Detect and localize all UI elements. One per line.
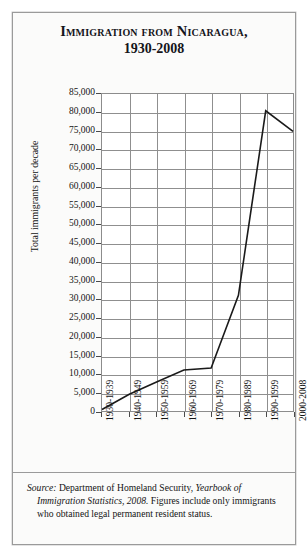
source-note: Source: Department of Homeland Security,… [27, 481, 291, 521]
y-axis-tick-label: 15,000 [69, 351, 95, 361]
y-axis-tick-label: 70,000 [69, 144, 95, 154]
y-axis-tick-label: 5,000 [74, 388, 95, 398]
y-axis-tick-label: 60,000 [69, 182, 95, 192]
y-axis-tick-label: 80,000 [69, 107, 95, 117]
x-axis-tick-mark [101, 412, 102, 417]
x-axis-tick-label: 1930-1939 [105, 380, 115, 421]
y-axis-tick-label: 0 [90, 407, 95, 417]
chart-title-line-2: 1930-2008 [13, 40, 295, 57]
y-axis-tick-label: 45,000 [69, 238, 95, 248]
chart-title: Immigration from Nicaragua, 1930-2008 [13, 23, 295, 57]
x-axis-tick-mark [239, 412, 240, 417]
x-axis-tick-mark [211, 412, 212, 417]
x-axis-tick-label: 1970-1979 [215, 380, 225, 421]
chart-title-line-1: Immigration from Nicaragua, [13, 23, 295, 40]
figure-panel: Immigration from Nicaragua, 1930-2008 To… [12, 12, 296, 545]
y-axis-tick-labels: 85,00080,00075,00070,00065,00060,00055,0… [41, 93, 95, 412]
source-label: Source: [27, 482, 56, 493]
y-axis-tick-label: 85,000 [69, 88, 95, 98]
y-axis-tick-label: 55,000 [69, 201, 95, 211]
y-axis-tick-label: 65,000 [69, 163, 95, 173]
x-axis-tick-label: 1980-1989 [243, 380, 253, 421]
y-axis-title: Total immigrants per decade [29, 107, 40, 287]
x-axis-tick-mark [266, 412, 267, 417]
source-text-part-1: Department of Homeland Security, [56, 482, 195, 493]
y-axis-tick-label: 50,000 [69, 219, 95, 229]
y-axis-tick-label: 35,000 [69, 276, 95, 286]
x-axis-tick-label: 1940-1949 [133, 380, 143, 421]
footer-divider [13, 472, 295, 473]
y-axis-tick-label: 20,000 [69, 332, 95, 342]
x-axis-tick-mark [156, 412, 157, 417]
x-axis-tick-label: 1990-1999 [270, 380, 280, 421]
x-axis-tick-label: 1950-1959 [160, 380, 170, 421]
y-axis-tick-label: 40,000 [69, 257, 95, 267]
y-axis-tick-label: 75,000 [69, 126, 95, 136]
x-axis-tick-mark [294, 412, 295, 417]
y-axis-tick-label: 25,000 [69, 313, 95, 323]
x-axis-tick-mark [184, 412, 185, 417]
x-axis-tick-label: 1960-1969 [188, 380, 198, 421]
y-axis-tick-label: 30,000 [69, 294, 95, 304]
y-axis-tick-label: 10,000 [69, 369, 95, 379]
plot-area [101, 93, 294, 412]
x-axis-tick-label: 2000-2008 [298, 380, 308, 421]
data-series-line [102, 94, 293, 411]
x-axis-tick-mark [129, 412, 130, 417]
